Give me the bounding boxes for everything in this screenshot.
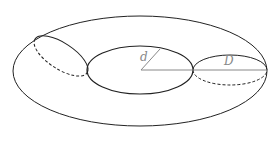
label-D: D <box>223 54 234 68</box>
outer-ellipse <box>13 16 267 126</box>
torus-diagram: d D <box>0 0 279 142</box>
left-section-bottom-dashed <box>28 39 87 84</box>
label-d: d <box>140 50 148 64</box>
right-section-bottom-dashed <box>193 70 267 85</box>
